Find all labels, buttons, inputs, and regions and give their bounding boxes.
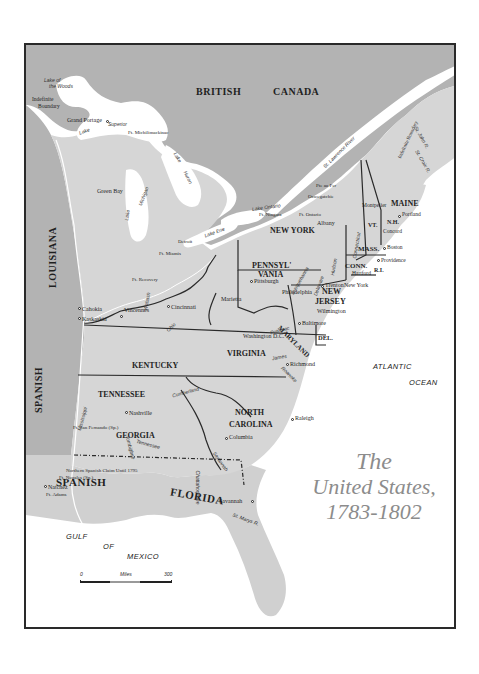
city-portland: Portland (402, 212, 421, 218)
label-louisiana: LOUISIANA (48, 227, 58, 288)
city-nashville: Nashville (129, 410, 152, 416)
city-new-york: New York (344, 282, 368, 288)
city-kaskaskia: Kaskaskia (82, 316, 107, 322)
city-detroit: Detroit (178, 239, 192, 244)
city-dot (225, 437, 228, 440)
city-washington: Washington D.C. (243, 333, 284, 339)
scale-unit: Miles (120, 572, 132, 577)
city-ft-ontario: Ft. Ontario (299, 212, 321, 217)
city-grand-portage: Grand Portage (67, 117, 102, 123)
city-concord: Concord (383, 229, 402, 235)
city-baltimore: Baltimore (302, 320, 326, 326)
city-dot (377, 259, 380, 262)
city-pte-au-fer: Pte au Fer (316, 183, 336, 188)
city-richmond: Richmond (290, 361, 315, 367)
scale-start: 0 (80, 572, 83, 577)
scale-end: 300 (164, 572, 172, 577)
title-line-1: The (289, 448, 456, 475)
label-nh: N.H. (387, 219, 399, 225)
city-dot (120, 315, 123, 318)
label-lake-of-woods-2: the Woods (49, 84, 73, 89)
label-ri: R.I. (374, 267, 384, 273)
city-marietta: Marietta (221, 296, 241, 302)
label-canada: CANADA (273, 87, 319, 97)
city-oswegatchie: Oswegatchie (308, 194, 334, 199)
label-nj-1: NEW (322, 288, 341, 296)
city-cincinnati: Cincinnati (171, 304, 196, 310)
label-georgia: GEORGIA (116, 432, 155, 440)
label-vt: VT. (368, 222, 377, 228)
city-albany: Albany (317, 220, 335, 226)
city-trenton: Trenton (325, 282, 344, 288)
city-raleigh: Raleigh (295, 415, 314, 421)
scale-seg (80, 581, 110, 583)
city-dot (250, 280, 253, 283)
city-dot (78, 317, 81, 320)
city-dot (298, 322, 301, 325)
title-line-3: 1783-1802 (289, 500, 456, 525)
city-ft-nogales: Ft. Nogales (Sp.) (59, 475, 93, 480)
city-ft-niagara: Ft. Niagara (259, 212, 282, 217)
scale-seg (140, 581, 172, 583)
map-frame: BRITISH CANADA LOUISIANA SPANISH SPANISH… (24, 43, 456, 629)
label-lake-superior-2: Superior (108, 122, 127, 127)
city-dot (167, 305, 170, 308)
label-of: OF (103, 543, 114, 551)
label-ocean: OCEAN (409, 379, 438, 387)
label-nc-2: CAROLINA (229, 421, 273, 429)
label-nj-2: JERSEY (315, 298, 346, 306)
title-line-2: United States, (289, 475, 456, 500)
label-virginia: VIRGINIA (227, 350, 266, 358)
city-dot (291, 418, 294, 421)
city-ft-miamis: Ft. Miamis (159, 251, 181, 256)
city-providence: Providence (381, 258, 406, 264)
label-del: DEL. (318, 335, 333, 342)
label-indefinite-1: Indefinite (32, 97, 53, 103)
city-pittsburgh: Pittsburgh (254, 278, 279, 284)
city-columbia: Columbia (229, 434, 253, 440)
scale-seg (110, 581, 140, 583)
label-conn: CONN. (345, 263, 367, 270)
label-new-york: NEW YORK (270, 227, 315, 235)
label-mexico: MEXICO (127, 553, 159, 561)
label-northern-spanish-claim: Northern Spanish Claim Until 1795 (66, 468, 137, 473)
label-chattahoochee-r: Chattahoochee (195, 471, 200, 505)
city-savannah: Savannah (219, 498, 242, 504)
map-base (26, 45, 456, 629)
city-hartford: Hartford (352, 271, 371, 277)
city-ft-recovery: Ft. Recovery (132, 277, 158, 282)
city-montpelier: Montpelier (362, 203, 386, 209)
city-ft-adams: Ft. Adams (46, 492, 67, 497)
city-cahokia: Cahokia (82, 306, 102, 312)
city-dot (78, 307, 81, 310)
city-wilmington: Wilmington (317, 308, 346, 314)
label-kentucky: KENTUCKY (132, 362, 178, 370)
city-dot (44, 485, 47, 488)
city-boston: Boston (387, 245, 403, 251)
label-spanish-west: SPANISH (34, 367, 44, 413)
label-maine: MAINE (391, 200, 419, 208)
label-tennessee: TENNESSEE (98, 391, 145, 399)
label-mass: MASS. (358, 246, 379, 253)
city-green-bay: Green Bay (97, 188, 123, 194)
label-nc-1: NORTH (235, 409, 264, 417)
city-ft-michilimackinac: Ft. Michilimackinac (128, 130, 169, 135)
city-dot (125, 411, 128, 414)
city-dot (251, 500, 254, 503)
label-british: BRITISH (196, 87, 241, 97)
city-dot (398, 215, 401, 218)
city-natchez: Natchez (48, 484, 68, 490)
label-gulf: GULF (66, 533, 88, 541)
label-indefinite-2: Boundary (38, 104, 60, 110)
map-title: The United States, 1783-1802 (289, 448, 456, 524)
label-atlantic: ATLANTIC (373, 363, 412, 371)
city-dot (383, 247, 386, 250)
city-dot (286, 363, 289, 366)
label-penn-1: PENNSYL' (252, 262, 292, 270)
